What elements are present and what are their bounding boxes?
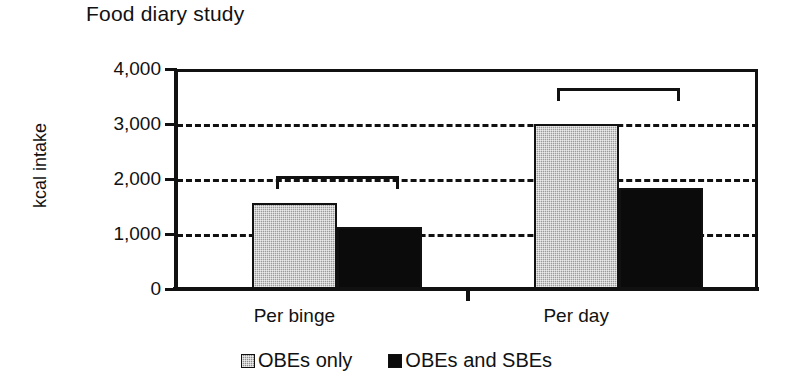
y-axis-title: kcal intake [30,101,51,231]
y-tick-label-3000: 3,000 [113,113,161,135]
legend-label: OBEs and SBEs [405,349,552,372]
significance-bracket-per-day [557,88,680,101]
gridline-3000 [177,124,758,127]
bar-per-binge-obes-and-sbes [337,227,422,289]
y-tick-label-1000: 1,000 [113,223,161,245]
gridline-2000 [177,179,758,182]
y-tick-mark-4000 [165,68,177,71]
x-axis-label-per-day: Per day [543,305,608,327]
bar-per-day-obes-only [534,124,619,289]
significance-bracket-per-binge [276,176,399,189]
chart-legend: OBEs onlyOBEs and SBEs [0,349,793,372]
plot-area: 4,0003,0002,0001,0000 [177,69,758,289]
chart-figure: Food diary study kcal intake 4,0003,0002… [0,0,793,384]
x-axis-label-per-binge: Per binge [254,305,335,327]
plot-top-border [177,69,758,72]
x-tick-mark-separator [466,289,470,301]
y-tick-mark-0 [165,288,177,291]
chart-title: Food diary study [86,2,244,26]
bar-per-day-obes-and-sbes [619,188,704,289]
y-tick-mark-2000 [165,178,177,181]
y-tick-label-2000: 2,000 [113,168,161,190]
legend-label: OBEs only [258,349,352,372]
y-tick-mark-3000 [165,123,177,126]
y-tick-mark-1000 [165,233,177,236]
legend-entry-obes-and-sbes[interactable]: OBEs and SBEs [388,349,552,372]
legend-swatch-black [388,354,402,368]
bar-per-binge-obes-only [252,203,337,289]
y-tick-label-4000: 4,000 [113,58,161,80]
legend-entry-obes-only[interactable]: OBEs only [241,349,352,372]
y-tick-label-0: 0 [150,278,161,300]
legend-swatch-grey [241,354,255,368]
